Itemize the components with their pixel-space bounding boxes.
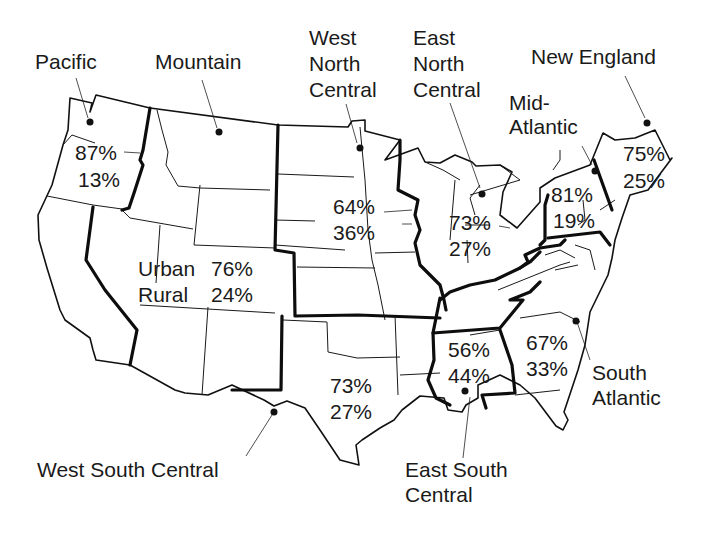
south-atlantic-urban: 67% [526,331,568,354]
east-north-central-urban: 73% [449,211,491,234]
mid-atlantic-rural: 19% [553,209,595,232]
west-north-central-urban: 64% [333,195,375,218]
label-mid-atlantic: Mid- Atlantic [509,91,578,138]
east-south-central-urban: 56% [448,338,490,361]
new-england-dot [644,120,651,127]
mid-atlantic-urban: 81% [551,183,593,206]
west-north-central-dot [357,145,364,152]
west-south-central-urban: 73% [330,374,372,397]
label-mountain: Mountain [155,50,241,73]
mountain-dot [216,129,223,136]
label-east-north-central: East North Central [413,26,481,101]
west-north-central-rural: 36% [333,221,375,244]
east-south-central-dot [462,388,469,395]
east-south-central-rural: 44% [448,364,490,387]
pacific-rural: 13% [78,168,120,191]
us-census-divisions-map: # [0,0,714,536]
label-south-atlantic: South Atlantic [592,361,661,409]
pacific-dot [87,119,94,126]
label-pacific: Pacific [35,50,97,73]
label-west-north-central: West North Central [309,26,377,101]
label-new-england: New England [531,45,656,68]
legend-urban-label: Urban [138,257,195,280]
new-england-urban: 75% [623,142,665,165]
label-west-south-central: West South Central [37,458,219,481]
east-north-central-rural: 27% [449,237,491,260]
label-east-south-central: East South Central [405,458,514,506]
pacific-urban: 87% [75,141,117,164]
mountain-urban: 76% [211,257,253,280]
east-north-central-dot [479,191,486,198]
west-south-central-dot [271,409,278,416]
legend-rural-label: Rural [138,283,188,306]
new-england-rural: 25% [623,169,665,192]
south-atlantic-rural: 33% [526,357,568,380]
mountain-rural: 24% [211,283,253,306]
south-atlantic-dot [573,318,580,325]
west-south-central-rural: 27% [330,400,372,423]
mid-atlantic-dot [592,168,599,175]
